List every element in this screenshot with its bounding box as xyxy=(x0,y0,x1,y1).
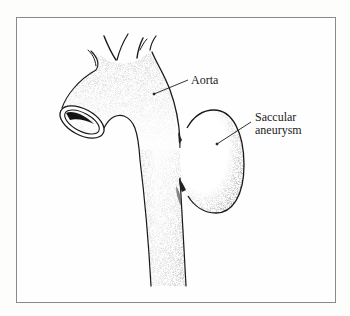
aneurysm-label-line2: aneurysm xyxy=(255,124,302,136)
aneurysm-label-line1: Saccular xyxy=(255,111,296,123)
aorta-shape xyxy=(62,50,186,286)
saccular-aneurysm xyxy=(176,110,244,213)
aorta-illustration xyxy=(0,0,350,316)
aorta-label: Aorta xyxy=(191,74,218,86)
